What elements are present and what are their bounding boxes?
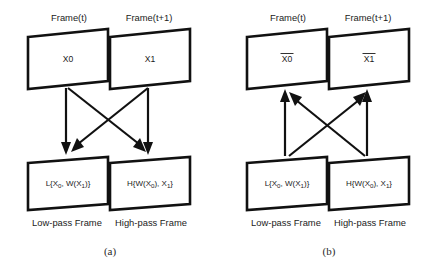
panel-b-top-box-2-header: Frame(t+1) (345, 12, 392, 23)
panel-a: Frame(t) Frame(t+1) X0 X1 L{X0, W(X1)} H… (0, 0, 220, 269)
panel-a-label: (a) (104, 245, 117, 258)
panel-a-top-box-1-label: X0 (63, 54, 74, 64)
panel-b-bottom-box-1-suffix: )} (304, 179, 310, 188)
panel-b-top-box-2-label: X1 (364, 54, 375, 64)
panel-b-top-box-1-header: Frame(t) (270, 12, 306, 23)
panel-a-bottom-box-2-suffix: } (170, 179, 173, 188)
panel-a-arrow-diagonal-right-to-left (78, 88, 148, 144)
panel-a-bottom-box-2-caption: High-pass Frame (115, 217, 187, 228)
panel-b-bottom-box-2-label: H{W(X0), X1} (346, 179, 392, 189)
panel-a-bottom-box-1-caption: Low-pass Frame (32, 217, 102, 228)
panel-b-bottom-box-2-caption: High-pass Frame (334, 217, 406, 228)
panel-b: Frame(t) Frame(t+1) X0 X1 L{X0, W(X1)} H… (219, 0, 439, 269)
panel-b-bottom-box-2-mid: ), X (373, 179, 386, 188)
panel-b-bottom-box-2-suffix: } (389, 179, 392, 188)
panel-a-top-box-2-label: X1 (145, 54, 156, 64)
panel-a-bottom-box-1-prefix: L{X (46, 179, 59, 188)
panel-b-label: (b) (323, 245, 336, 258)
panel-a-bottom-box-2-label: H{W(X0), X1} (127, 179, 173, 189)
panel-b-arrow-diagonal-left-to-right (289, 100, 359, 156)
panel-a-top-box-1-header: Frame(t) (51, 12, 87, 23)
figure-container: Frame(t) Frame(t+1) X0 X1 L{X0, W(X1)} H… (0, 0, 439, 269)
panel-b-top-box-1-label: X0 (282, 54, 293, 64)
panel-a-top-box-2-header: Frame(t+1) (126, 12, 173, 23)
panel-a-bottom-box-2-mid: ), X (154, 179, 167, 188)
panel-b-arrowhead-left-vertical (280, 89, 290, 102)
panel-b-bottom-box-1-mid: , W(X (281, 179, 302, 188)
panel-b-bottom-box-1-caption: Low-pass Frame (251, 217, 321, 228)
panel-b-bottom-box-2-prefix: H{W(X (346, 179, 371, 188)
panel-a-bottom-box-1-suffix: )} (85, 179, 91, 188)
panel-b-bottom-box-1-prefix: L{X (265, 179, 278, 188)
panel-b-arrow-diagonal-right-to-left (296, 100, 365, 156)
panel-a-bottom-box-1-mid: , W(X (62, 179, 83, 188)
panel-a-bottom-box-2-prefix: H{W(X (127, 179, 152, 188)
panel-a-arrowhead-left-vertical (61, 142, 71, 155)
panel-a-arrow-diagonal-left-to-right (68, 88, 139, 144)
